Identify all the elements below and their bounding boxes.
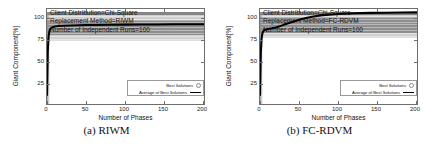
ytick-right-50 xyxy=(201,62,204,63)
legend-label-best-solutions: Best Solutions xyxy=(166,83,193,88)
legend-label-average-best-solutions: Average of Best Solutions xyxy=(139,90,187,95)
annotation-line-2: Replacement Method=RIWM xyxy=(50,17,150,25)
annotation-block-riwm: Client Distribution=Chi-Square Replaceme… xyxy=(50,9,150,34)
xtick-200 xyxy=(416,101,417,104)
y-axis-title: Giant Component[%] xyxy=(225,26,232,86)
xticklabel-100: 100 xyxy=(119,106,129,112)
annotation-line-3: Number of Independent Runs=100 xyxy=(50,26,150,34)
xticklabel-150: 150 xyxy=(158,106,168,112)
ytick-right-100 xyxy=(201,18,204,19)
y-axis-title: Giant Component[%] xyxy=(12,26,19,86)
yticklabel-50: 50 xyxy=(30,58,44,64)
xtick-top-150 xyxy=(164,9,165,12)
legend-fcrdvm: Best Solutions Average of Best Solutions xyxy=(340,80,417,96)
xtick-50 xyxy=(86,101,87,104)
circle-marker-icon xyxy=(409,83,414,88)
yticklabel-25: 25 xyxy=(243,80,257,86)
ytick-25 xyxy=(47,84,50,85)
xtick-200 xyxy=(203,101,204,104)
ytick-right-75 xyxy=(414,40,417,41)
xtick-150 xyxy=(164,101,165,104)
yticklabel-100: 100 xyxy=(243,14,257,20)
panel-fcrdvm: Best Solutions Average of Best Solutions… xyxy=(213,0,426,147)
ytick-50 xyxy=(47,62,50,63)
xticklabel-150: 150 xyxy=(371,106,381,112)
xticklabel-100: 100 xyxy=(332,106,342,112)
xtick-150 xyxy=(377,101,378,104)
ytick-75 xyxy=(47,40,50,41)
legend-riwm: Best Solutions Average of Best Solutions xyxy=(127,80,204,96)
annotation-block-fcrdvm: Client Distribution=Chi-Square Replaceme… xyxy=(263,9,363,34)
xticklabel-200: 200 xyxy=(197,106,207,112)
yticklabel-75: 75 xyxy=(243,36,257,42)
ytick-25 xyxy=(260,84,263,85)
xtick-0 xyxy=(260,101,261,104)
ytick-right-100 xyxy=(414,18,417,19)
xticklabel-0: 0 xyxy=(44,106,47,112)
x-axis-title: Number of Phases xyxy=(46,114,205,121)
panel-caption-riwm: (a) RIWM xyxy=(0,124,213,136)
legend-row-average-best-solutions: Average of Best Solutions xyxy=(130,89,201,96)
circle-marker-icon xyxy=(196,83,201,88)
xticklabel-50: 50 xyxy=(82,106,89,112)
legend-row-average-best-solutions: Average of Best Solutions xyxy=(343,89,414,96)
panel-riwm: Best Solutions Average of Best Solutions… xyxy=(0,0,213,147)
ytick-right-50 xyxy=(414,62,417,63)
legend-label-best-solutions: Best Solutions xyxy=(379,83,406,88)
panel-caption-fcrdvm: (b) FC-RDVM xyxy=(213,124,426,136)
yticklabel-75: 75 xyxy=(30,36,44,42)
yticklabel-50: 50 xyxy=(243,58,257,64)
xtick-100 xyxy=(338,101,339,104)
annotation-line-1: Client Distribution=Chi-Square xyxy=(263,9,363,17)
xtick-0 xyxy=(47,101,48,104)
line-marker-icon xyxy=(190,92,201,94)
line-marker-icon xyxy=(403,92,414,94)
legend-row-best-solutions: Best Solutions xyxy=(343,82,414,89)
legend-row-best-solutions: Best Solutions xyxy=(130,82,201,89)
legend-label-average-best-solutions: Average of Best Solutions xyxy=(352,90,400,95)
xtick-50 xyxy=(299,101,300,104)
yticklabel-25: 25 xyxy=(30,80,44,86)
ytick-right-75 xyxy=(201,40,204,41)
xtick-100 xyxy=(125,101,126,104)
x-axis-title: Number of Phases xyxy=(259,114,418,121)
figure-two-panel-chart: Best Solutions Average of Best Solutions… xyxy=(0,0,426,147)
xticklabel-0: 0 xyxy=(257,106,260,112)
annotation-line-1: Client Distribution=Chi-Square xyxy=(50,9,150,17)
annotation-line-3: Number of Independent Runs=100 xyxy=(263,26,363,34)
ytick-50 xyxy=(260,62,263,63)
xticklabel-50: 50 xyxy=(295,106,302,112)
yticklabel-100: 100 xyxy=(30,14,44,20)
ytick-75 xyxy=(260,40,263,41)
xticklabel-200: 200 xyxy=(410,106,420,112)
annotation-line-2: Replacement Method=FC-RDVM xyxy=(263,17,363,25)
xtick-top-150 xyxy=(377,9,378,12)
